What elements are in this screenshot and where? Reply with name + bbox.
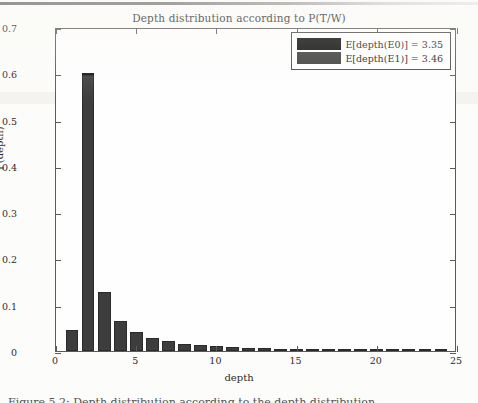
bars-layer	[56, 29, 455, 351]
x-axis-tick-label: 15	[276, 355, 316, 366]
bar	[66, 330, 79, 351]
x-axis-tick	[457, 346, 458, 352]
bar	[274, 349, 287, 351]
y-axis-tick	[450, 353, 456, 354]
y-axis-tick-label: 0.5	[0, 115, 17, 126]
bar	[98, 292, 111, 351]
x-axis-tick-label: 25	[436, 355, 476, 366]
legend-swatch-e1	[297, 52, 341, 64]
bar	[338, 349, 351, 351]
legend-label-e1: E[depth(E1)] = 3.46	[341, 53, 445, 64]
bar	[306, 349, 319, 351]
y-axis-tick-label: 0.3	[0, 208, 17, 219]
y-axis-tick	[55, 307, 61, 308]
x-axis-tick	[136, 346, 137, 352]
y-axis-tick	[55, 260, 61, 261]
y-axis-tick-label: 0.7	[0, 23, 17, 34]
caption-fragment: Figure 5.2: Depth distribution according…	[8, 396, 478, 403]
chart-title: Depth distribution according to P(T/W)	[0, 12, 478, 24]
legend-label-e0: E[depth(E0)] = 3.35	[341, 39, 445, 50]
y-axis-tick	[55, 122, 61, 123]
legend-entry: E[depth(E0)] = 3.35	[297, 37, 445, 51]
y-axis-tick	[55, 168, 61, 169]
bar	[146, 338, 159, 351]
y-axis-tick-label: 0.4	[0, 161, 17, 172]
x-axis-tick	[56, 28, 57, 34]
scan-artifact-top-line	[0, 2, 478, 5]
y-axis-tick	[450, 214, 456, 215]
y-axis-tick	[450, 122, 456, 123]
bar	[178, 344, 191, 351]
y-axis-tick	[55, 353, 61, 354]
bar	[354, 349, 367, 351]
x-axis-tick	[136, 28, 137, 34]
bar	[162, 341, 175, 351]
y-axis-tick-label: 0.1	[0, 300, 17, 311]
legend-entry: E[depth(E1)] = 3.46	[297, 51, 445, 65]
y-axis-tick	[450, 307, 456, 308]
bar	[258, 348, 271, 351]
x-axis-tick-label: 20	[356, 355, 396, 366]
y-axis-tick	[55, 214, 61, 215]
legend-swatch-e0	[297, 38, 341, 50]
bar	[242, 348, 255, 351]
x-axis-tick	[297, 346, 298, 352]
bar	[435, 349, 448, 351]
x-axis-tick	[56, 346, 57, 352]
x-axis-title: depth	[0, 372, 478, 383]
x-axis-tick	[216, 28, 217, 34]
y-axis-tick-label: 0	[0, 347, 17, 358]
bar	[82, 75, 95, 351]
y-axis-tick	[450, 168, 456, 169]
bar	[114, 321, 127, 351]
y-axis-tick	[55, 75, 61, 76]
x-axis-tick	[457, 28, 458, 34]
x-axis-tick	[377, 346, 378, 352]
y-axis-tick	[450, 75, 456, 76]
y-axis-tick-label: 0.2	[0, 254, 17, 265]
bar	[322, 349, 335, 351]
bar	[419, 349, 432, 351]
plot-area	[55, 28, 456, 352]
bar	[386, 349, 399, 351]
figure-canvas: Depth distribution according to P(T/W) P…	[0, 0, 478, 403]
x-axis-tick-label: 0	[35, 355, 75, 366]
y-axis-tick	[450, 260, 456, 261]
bar	[226, 347, 239, 351]
bar	[194, 345, 207, 351]
legend-box: E[depth(E0)] = 3.35 E[depth(E1)] = 3.46	[291, 32, 451, 70]
x-axis-tick	[216, 346, 217, 352]
x-axis-tick-label: 5	[115, 355, 155, 366]
y-axis-tick	[450, 29, 456, 30]
y-axis-tick-label: 0.6	[0, 69, 17, 80]
x-axis-tick-label: 10	[195, 355, 235, 366]
bar	[402, 349, 415, 351]
